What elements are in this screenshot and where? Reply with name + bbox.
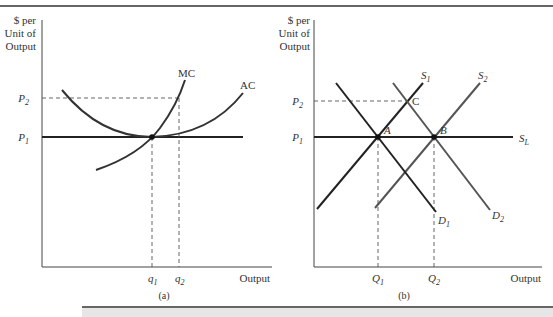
ac-label: AC xyxy=(240,79,255,91)
caption-a: (a) xyxy=(158,290,169,302)
mc-label: MC xyxy=(178,67,195,79)
caption-b: (b) xyxy=(398,290,410,302)
panel-a: $ per Unit of Output P2 P1 AC MC q1 q2 O… xyxy=(5,14,272,302)
s2-label: S2 xyxy=(478,69,488,84)
y-axis-label-b-1: $ per xyxy=(288,14,311,26)
q2-label-b: Q2 xyxy=(428,272,440,287)
equilibrium-point-a xyxy=(149,134,155,140)
panel-b: $ per Unit of Output P2 P1 SL S1 S2 D1 D… xyxy=(279,14,542,302)
d2-curve xyxy=(393,83,490,210)
d2-label: D2 xyxy=(491,209,504,224)
x-axis-label-a: Output xyxy=(239,272,270,284)
point-b-label: B xyxy=(440,124,447,136)
p2-label-a: P2 xyxy=(17,92,29,107)
s2-curve xyxy=(375,83,480,208)
bottom-bar xyxy=(82,306,553,317)
point-a xyxy=(375,134,381,140)
p1-label-b: P1 xyxy=(291,131,303,146)
d1-label: D1 xyxy=(437,214,450,229)
y-axis-label-b-3: Output xyxy=(279,40,310,52)
point-c-label: C xyxy=(412,95,419,107)
point-a-label: A xyxy=(383,124,391,136)
q1-label-b: Q1 xyxy=(372,272,384,287)
sl-label: SL xyxy=(519,132,530,147)
y-axis-label-a-3: Output xyxy=(5,40,36,52)
ac-curve xyxy=(62,90,243,137)
point-b xyxy=(431,134,437,140)
y-axis-label-a-1: $ per xyxy=(14,14,37,26)
p1-label-a: P1 xyxy=(17,131,29,146)
d1-curve xyxy=(336,83,436,212)
y-axis-label-b-2: Unit of xyxy=(279,27,311,39)
x-axis-label-b: Output xyxy=(510,272,541,284)
y-axis-label-a-2: Unit of xyxy=(5,27,37,39)
s1-label: S1 xyxy=(421,69,431,84)
q1-label-a: q1 xyxy=(148,272,158,287)
p2-label-b: P2 xyxy=(291,95,303,110)
q2-label-a: q2 xyxy=(175,272,185,287)
mc-curve xyxy=(96,80,185,170)
